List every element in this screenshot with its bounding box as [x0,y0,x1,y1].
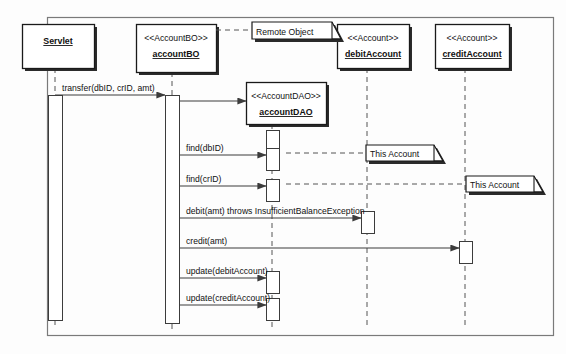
activation-act-dao-create [267,131,280,149]
participant-name-accountBO: accountBO [153,49,200,59]
participant-box-creditAccount[interactable] [436,25,510,69]
message-label-msg-credit: credit(amt) [186,236,227,246]
note-label-note-this-account-credit: This Account [470,180,520,190]
activation-act-credit [460,242,473,264]
participant-stereotype-accountBO: <<AccountBO>> [144,33,208,43]
participant-box-accountDAO[interactable] [247,83,327,125]
participant-stereotype-accountDAO: <<AccountDAO>> [251,91,321,101]
message-label-msg-update-debit: update(debitAccount) [186,266,268,276]
message-label-msg-transfer: transfer(dbID, crID, amt) [62,83,155,93]
participant-name-creditAccount: creditAccount [442,49,501,59]
activation-act-dao-update-debit [267,272,280,294]
message-label-msg-update-credit: update(creditAccount) [186,293,270,303]
sequence-diagram-canvas: Servlet<<AccountBO>>accountBO<<AccountDA… [0,0,566,354]
diagram-surface: Servlet<<AccountBO>>accountBO<<AccountDA… [0,0,566,354]
participant-box-servlet[interactable] [23,25,95,69]
participant-name-accountDAO: accountDAO [259,107,312,117]
message-label-msg-find-crid: find(crID) [186,174,221,184]
message-label-msg-find-dbid: find(dbID) [186,143,224,153]
activation-bar-servlet [49,96,63,321]
participant-name-debitAccount: debitAccount [345,49,401,59]
participant-box-debitAccount[interactable] [338,25,410,69]
participant-stereotype-debitAccount: <<Account>> [347,33,398,43]
activation-act-dao-find-dbid [267,149,280,171]
note-label-note-remote-object: Remote Object [256,27,314,37]
note-label-note-this-account-debit: This Account [370,149,420,159]
participant-stereotype-creditAccount: <<Account>> [446,33,497,43]
activation-act-dao-find-crid [267,180,280,202]
message-label-msg-debit: debit(amt) throws InsufficientBalanceExc… [186,206,365,216]
participant-name-servlet: Servlet [43,36,72,46]
activation-bar-accountBO [166,96,180,324]
